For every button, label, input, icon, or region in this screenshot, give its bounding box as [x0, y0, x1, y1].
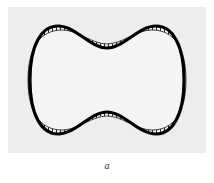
figure-caption: a: [0, 160, 214, 172]
figure-root: a: [0, 0, 214, 183]
figure-plot: [0, 0, 214, 183]
hatched-lens-regions: [0, 0, 214, 183]
